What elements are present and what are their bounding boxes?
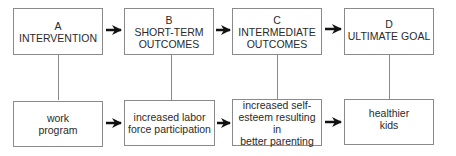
connector-b bbox=[171, 55, 172, 100]
detail-line-2: kids bbox=[380, 119, 399, 131]
header-letter: D bbox=[385, 18, 393, 30]
header-letter: A bbox=[54, 20, 61, 32]
header-box-short-term-outcomes: B SHORT-TERM OUTCOMES bbox=[124, 8, 214, 55]
detail-line-2: program bbox=[38, 124, 77, 136]
header-box-ultimate-goal: D ULTIMATE GOAL bbox=[344, 8, 434, 55]
connector-a bbox=[58, 55, 59, 100]
detail-line-1: increased self- bbox=[243, 99, 311, 111]
detail-line-2: esteem resulting in bbox=[233, 111, 321, 135]
header-title-line-1: SHORT-TERM bbox=[134, 26, 203, 38]
detail-line-1: increased labor bbox=[134, 111, 206, 123]
header-letter: C bbox=[273, 14, 281, 26]
detail-line-3: better parenting bbox=[240, 135, 314, 147]
detail-line-2: force participation bbox=[128, 123, 211, 135]
header-title-line-2: OUTCOMES bbox=[139, 38, 200, 50]
header-title: ULTIMATE GOAL bbox=[348, 30, 430, 42]
header-title-line-1: INTERMEDIATE bbox=[238, 26, 315, 38]
header-title-line-2: OUTCOMES bbox=[247, 38, 308, 50]
detail-box-self-esteem-parenting: increased self- esteem resulting in bett… bbox=[232, 99, 322, 146]
detail-line-1: healthier bbox=[369, 107, 409, 119]
header-title: INTERVENTION bbox=[19, 32, 97, 44]
detail-line-1: work bbox=[47, 112, 69, 124]
header-box-intervention: A INTERVENTION bbox=[13, 8, 103, 55]
header-box-intermediate-outcomes: C INTERMEDIATE OUTCOMES bbox=[232, 8, 322, 55]
detail-box-healthier-kids: healthier kids bbox=[344, 99, 434, 145]
connector-c bbox=[277, 55, 278, 100]
connector-d bbox=[389, 55, 390, 100]
detail-box-labor-participation: increased labor force participation bbox=[124, 100, 215, 146]
header-letter: B bbox=[165, 14, 172, 26]
detail-box-work-program: work program bbox=[13, 101, 103, 147]
